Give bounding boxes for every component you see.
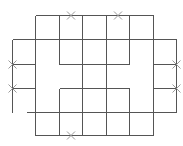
grid-lines	[13, 16, 177, 136]
grid-diagram	[0, 0, 183, 146]
x-markers	[9, 12, 181, 140]
